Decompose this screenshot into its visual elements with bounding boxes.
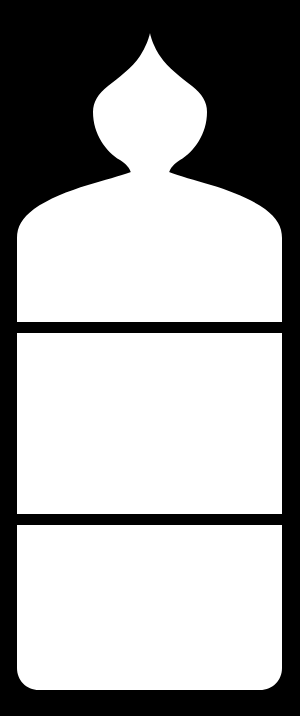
lower-divider-band — [0, 514, 300, 525]
torso-shape — [17, 172, 282, 690]
silhouette-canvas: o o o — [0, 0, 300, 716]
figure-silhouette — [0, 0, 300, 716]
upper-divider-band — [0, 322, 300, 333]
